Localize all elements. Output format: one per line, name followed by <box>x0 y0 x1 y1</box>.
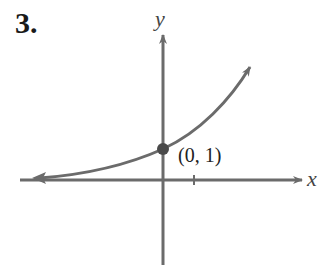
y-axis-label: y <box>153 6 165 31</box>
graph: (0, 1) x y <box>0 0 332 271</box>
x-axis-label: x <box>306 166 317 191</box>
point-0-1 <box>157 143 169 155</box>
point-label: (0, 1) <box>178 144 221 167</box>
